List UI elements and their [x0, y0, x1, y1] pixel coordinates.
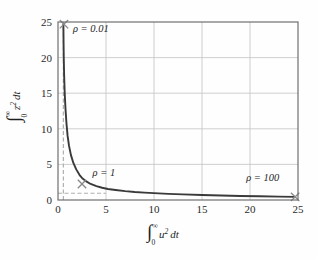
y-tick-label: 25	[41, 16, 53, 28]
y-axis-integral-label-lower-limit: 0	[20, 114, 29, 118]
y-axis-integral-label-expression: z2dt	[9, 90, 23, 111]
x-tick-label: 25	[293, 203, 305, 215]
y-tick-label: 15	[41, 87, 53, 99]
x-axis-integral-label-lower-limit: 0	[152, 238, 156, 247]
pareto-tradeoff-chart: 0510152025 0510152025 ρ = 0.01ρ = 1ρ = 1…	[0, 0, 318, 260]
x-tick-label: 20	[245, 203, 257, 215]
y-tick-label: 20	[41, 52, 53, 64]
x-axis-integral-label-upper-limit: ∞	[153, 221, 158, 230]
y-tick-label: 10	[41, 123, 53, 135]
x-tick-label: 15	[197, 203, 209, 215]
y-tick-label: 0	[47, 194, 53, 206]
chart-figure: 0510152025 0510152025 ρ = 0.01ρ = 1ρ = 1…	[0, 0, 318, 260]
x-tick-label: 0	[55, 203, 61, 215]
y-axis-integral-label-upper-limit: ∞	[3, 111, 12, 116]
x-axis-integral-label-power: 2	[165, 227, 169, 236]
rho-0.01-label: ρ = 0.01	[72, 23, 109, 34]
rho-1-label: ρ = 1	[92, 167, 116, 178]
x-tick-label: 5	[103, 203, 109, 215]
x-axis-integral-label-expression: u2dt	[159, 227, 180, 241]
x-tick-label: 10	[149, 203, 161, 215]
y-tick-label: 5	[47, 158, 53, 170]
y-axis-integral-label-power: 2	[9, 102, 18, 106]
rho-100-label: ρ = 100	[245, 172, 280, 183]
